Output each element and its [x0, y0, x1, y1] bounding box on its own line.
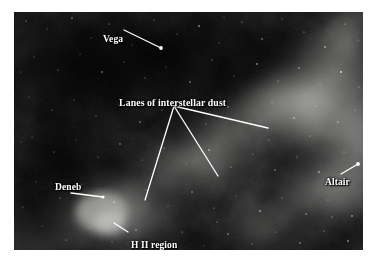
label-vega: Vega [103, 35, 123, 45]
star-marker-vega [159, 46, 163, 50]
label-lanes-of-interstellar-dust: Lanes of interstellar dust [119, 98, 226, 108]
film-grain [14, 12, 363, 250]
sky-image [14, 12, 363, 250]
figure-container: Vega Lanes of interstellar dust Deneb H … [0, 0, 379, 263]
label-h-ii-region: H II region [131, 241, 177, 250]
label-deneb: Deneb [55, 183, 81, 193]
label-altair: Altair [325, 178, 350, 188]
star-marker-deneb [101, 195, 104, 198]
astrophotograph: Vega Lanes of interstellar dust Deneb H … [14, 12, 363, 250]
star-marker-altair [356, 162, 360, 166]
